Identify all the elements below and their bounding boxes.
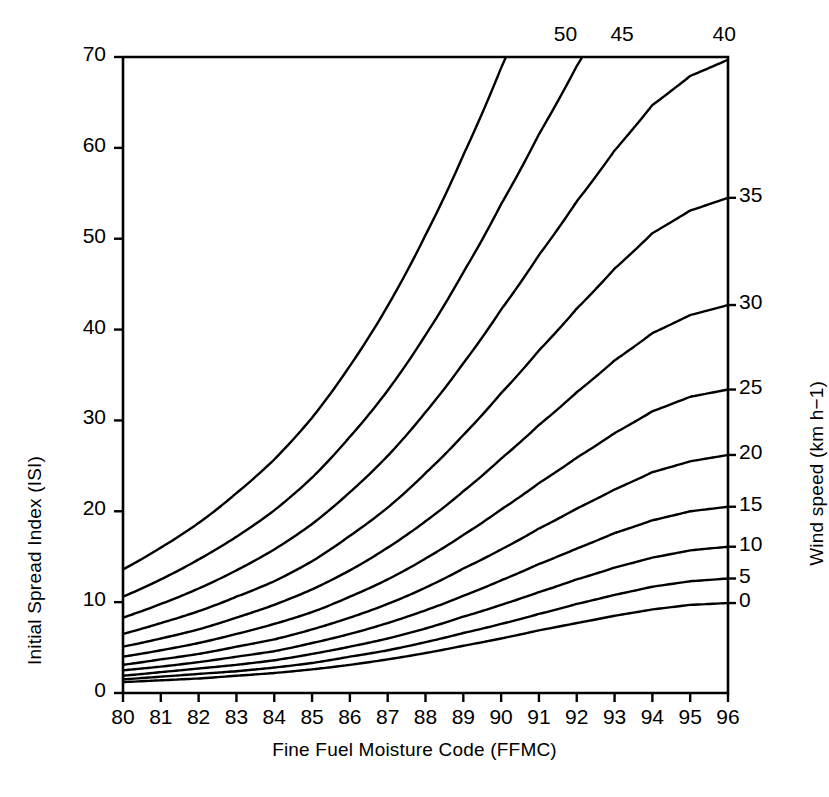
chart-figure: 0102030405060708081828384858687888990919… <box>0 0 829 797</box>
wind-speed-curve-label: 35 <box>739 183 762 207</box>
wind-speed-curve-label: 15 <box>739 492 762 516</box>
y-axis-title: Initial Spread Index (ISI) <box>24 456 46 665</box>
wind-speed-curve-label: 20 <box>739 440 762 464</box>
y-tick-label: 30 <box>56 405 106 429</box>
wind-speed-curve-label: 0 <box>739 588 751 612</box>
wind-speed-curve-label: 50 <box>543 22 587 46</box>
y-tick-label: 0 <box>56 678 106 702</box>
y-tick-label: 70 <box>56 42 106 66</box>
y-tick-label: 60 <box>56 133 106 157</box>
chart-canvas <box>0 0 829 797</box>
axes-group <box>123 57 728 693</box>
wind-speed-curve-label: 40 <box>702 22 746 46</box>
y-tick-label: 50 <box>56 224 106 248</box>
wind-speed-curve-label: 45 <box>600 22 644 46</box>
y-tick-label: 20 <box>56 496 106 520</box>
wind-speed-curve-label: 30 <box>739 290 762 314</box>
wind-speed-curve-label: 25 <box>739 375 762 399</box>
x-axis-title: Fine Fuel Moisture Code (FFMC) <box>0 739 829 761</box>
ticks-group <box>114 57 736 702</box>
y-tick-label: 40 <box>56 315 106 339</box>
x-tick-label: 96 <box>706 705 750 729</box>
wind-speed-curve-label: 10 <box>739 532 762 556</box>
y2-axis-title: Wind speed (km h−1) <box>806 381 828 566</box>
isi-curves-group <box>123 0 728 682</box>
y-tick-label: 10 <box>56 587 106 611</box>
wind-speed-curve-label: 5 <box>739 564 751 588</box>
